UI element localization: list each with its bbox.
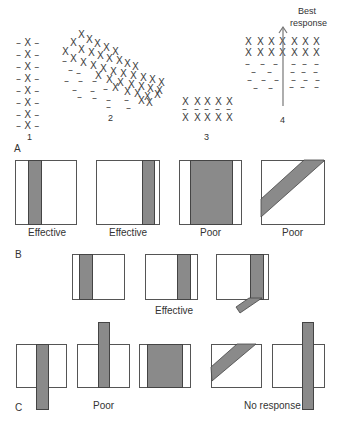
caption-poor: Poor: [93, 400, 114, 411]
bar-band-overflow-both: [302, 322, 314, 410]
caption-no-response: No response: [244, 400, 301, 411]
stimulus-box: [272, 344, 325, 388]
panel-c-label: C: [15, 402, 22, 413]
